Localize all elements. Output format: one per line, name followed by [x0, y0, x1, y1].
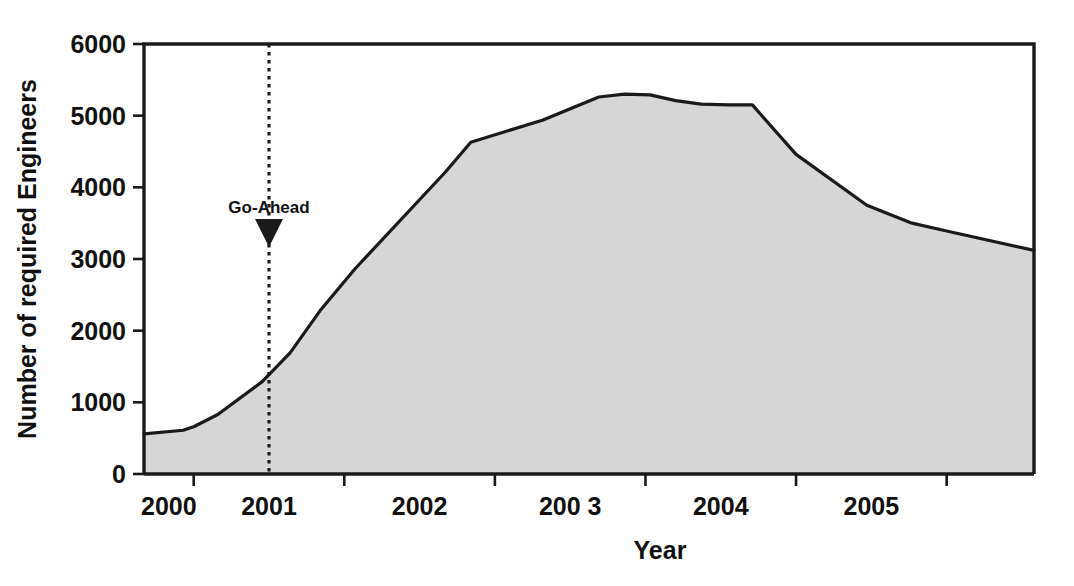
y-tick-label: 0 [112, 460, 126, 488]
y-tick-label: 1000 [70, 388, 126, 416]
y-axis-tick-labels: 0100020003000400050006000 [70, 30, 126, 488]
y-tick-label: 5000 [70, 102, 126, 130]
y-tick-label: 3000 [70, 245, 126, 273]
x-tick-label: 200 3 [539, 492, 602, 520]
x-tick-label: 2002 [392, 492, 448, 520]
x-tick-label: 2000 [141, 492, 197, 520]
x-tick-label: 2001 [241, 492, 297, 520]
x-tick-label: 2005 [844, 492, 900, 520]
y-tick-label: 6000 [70, 30, 126, 58]
y-tick-label: 4000 [70, 173, 126, 201]
x-axis-tick-labels: 200020012002200 320042005 [141, 492, 899, 520]
go-ahead-label: Go-Ahead [228, 198, 309, 217]
x-tick-label: 2004 [693, 492, 749, 520]
chart-figure: 0100020003000400050006000 20002001200220… [0, 0, 1074, 586]
x-axis-ticks [194, 474, 947, 486]
y-tick-label: 2000 [70, 317, 126, 345]
area-chart: 0100020003000400050006000 20002001200220… [0, 0, 1074, 586]
y-axis-title: Number of required Engineers [13, 79, 41, 439]
x-axis-title: Year [634, 536, 687, 564]
